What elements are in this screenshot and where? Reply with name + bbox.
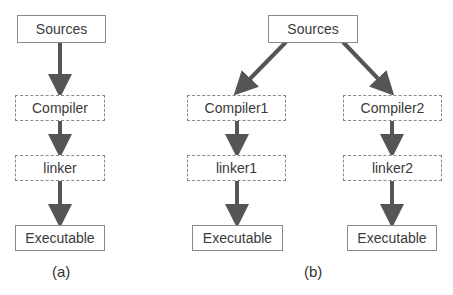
node-a-executable: Executable: [15, 225, 105, 251]
caption-b: (b): [304, 263, 322, 280]
node-a-sources: Sources: [17, 15, 106, 43]
node-label: Executable: [357, 230, 426, 246]
node-label: linker: [43, 160, 76, 176]
node-label: Compiler: [32, 100, 88, 116]
arrow-b-sources-compiler2: [343, 42, 386, 87]
node-label: linker2: [372, 160, 413, 176]
node-b-linker2: linker2: [343, 155, 442, 181]
node-label: Executable: [203, 230, 272, 246]
node-label: Executable: [25, 230, 94, 246]
node-a-compiler: Compiler: [15, 95, 105, 121]
node-label: Compiler2: [361, 100, 425, 116]
node-b-executable1: Executable: [192, 225, 283, 251]
node-b-executable2: Executable: [347, 225, 437, 251]
caption-a: (a): [52, 263, 70, 280]
node-label: Sources: [287, 21, 338, 37]
node-b-linker1: linker1: [187, 155, 286, 181]
node-label: linker1: [216, 160, 257, 176]
arrow-b-sources-compiler1: [242, 42, 286, 87]
node-b-sources: Sources: [268, 15, 358, 43]
node-a-linker: linker: [15, 155, 105, 181]
node-b-compiler2: Compiler2: [343, 95, 442, 121]
node-label: Sources: [36, 21, 87, 37]
node-label: Compiler1: [205, 100, 269, 116]
node-b-compiler1: Compiler1: [187, 95, 286, 121]
